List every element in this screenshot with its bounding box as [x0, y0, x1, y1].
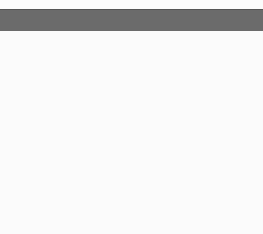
- graph: [0, 0, 263, 234]
